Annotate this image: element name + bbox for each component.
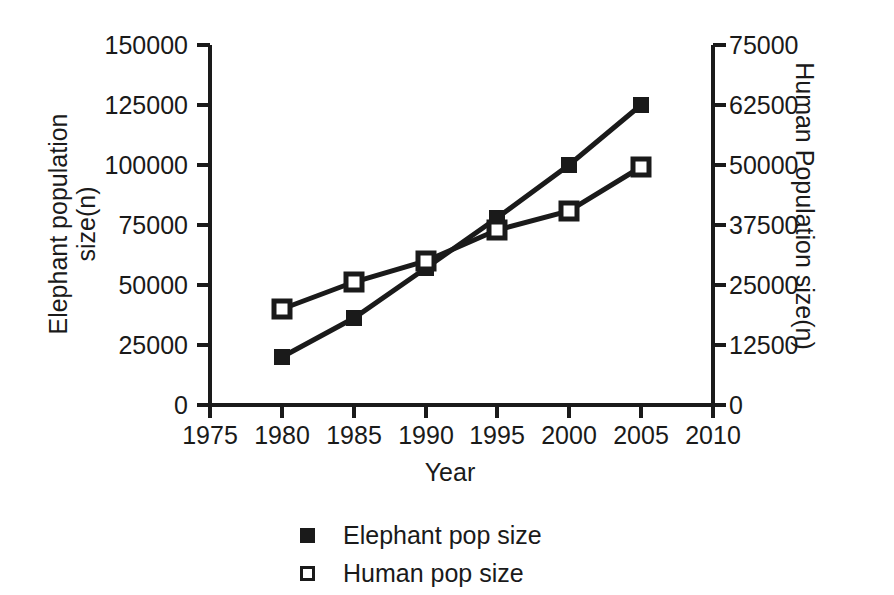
open-square-icon	[300, 566, 315, 581]
chart-figure: 150000 125000 100000 75000 50000 25000 0…	[0, 0, 894, 595]
y-tick-right-0: 0	[729, 391, 743, 420]
y-tick-right-37500: 37500	[729, 211, 799, 240]
x-tick-2010: 2010	[658, 421, 768, 450]
legend-item-elephant: Elephant pop size	[300, 516, 660, 554]
y-axis-right-title: Human Population size(n)	[791, 41, 819, 371]
chart-legend: Elephant pop size Human pop size	[300, 516, 660, 592]
legend-item-human: Human pop size	[300, 554, 660, 592]
y-tick-right-62500: 62500	[729, 91, 799, 120]
series-line-human	[282, 167, 641, 309]
y-tick-right-75000: 75000	[729, 31, 799, 60]
y-tick-right-12500: 12500	[729, 331, 799, 360]
y-tick-left-0: 0	[30, 391, 188, 420]
filled-square-icon	[300, 528, 315, 543]
legend-label-human: Human pop size	[343, 559, 524, 588]
series-line-elephant	[282, 105, 641, 357]
y-axis-left-title-line1: Elephant population	[44, 113, 72, 334]
y-tick-left-150000: 150000	[30, 31, 188, 60]
y-axis-left-title-line2: size(n)	[72, 187, 100, 262]
y-tick-right-50000: 50000	[729, 151, 799, 180]
x-axis-title: Year	[330, 458, 570, 486]
legend-label-elephant: Elephant pop size	[343, 521, 542, 550]
series-markers-elephant	[274, 97, 649, 365]
y-tick-right-25000: 25000	[729, 271, 799, 300]
y-axis-left-title: Elephant populationsize(n)	[44, 64, 100, 384]
